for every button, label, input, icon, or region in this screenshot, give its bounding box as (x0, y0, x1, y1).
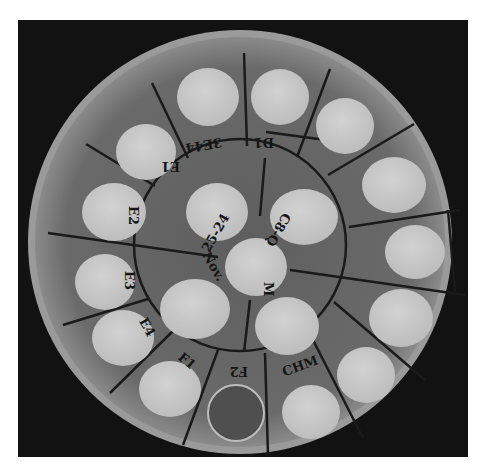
label-e2: E2 (126, 206, 141, 225)
label-e3: E3 (122, 271, 137, 290)
label-code1: M (261, 282, 276, 296)
label-top: D1 (254, 135, 274, 150)
petri-dish-photo: E1 3E44 D1 E2 E3 E4 F1 F2 CHM 25-24 Nov.… (18, 20, 468, 457)
petri-dish-illustration: E1 3E44 D1 E2 E3 E4 F1 F2 CHM 25-24 Nov.… (18, 20, 468, 457)
label-e1: E1 (161, 159, 180, 174)
empty-well-ring (208, 385, 264, 441)
label-f2: F2 (230, 364, 248, 379)
